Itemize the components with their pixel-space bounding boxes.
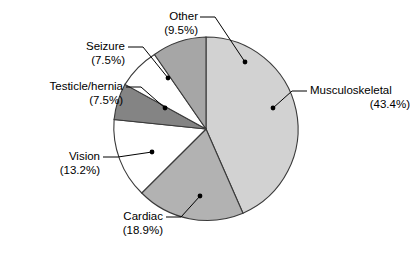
marker-dot-other (243, 60, 248, 65)
pie-chart-figure: Other (9.5%) Seizure (7.5%) Testicle/her… (0, 0, 413, 254)
pie-chart-canvas (0, 0, 413, 254)
slice-label-vision-name: Vision (22, 150, 100, 164)
slice-label-cardiac-percent: (18.9%) (88, 224, 163, 238)
slice-label-seizure-name: Seizure (50, 40, 125, 54)
marker-dot-vision (150, 150, 155, 155)
slice-label-vision-percent: (13.2%) (22, 164, 100, 178)
slice-label-cardiac: Cardiac (18.9%) (88, 210, 163, 237)
slice-label-musculoskeletal-percent: (43.4%) (310, 98, 410, 112)
marker-dot-testicle-hernia (163, 106, 168, 111)
slice-label-seizure-percent: (7.5%) (50, 54, 125, 68)
slice-label-testicle-hernia-name: Testicle/hernia (5, 80, 123, 94)
marker-dot-seizure (166, 76, 171, 81)
marker-dot-musculoskeletal (271, 106, 276, 111)
slice-label-seizure: Seizure (7.5%) (50, 40, 125, 67)
pie-slices (114, 37, 298, 220)
slice-label-cardiac-name: Cardiac (88, 210, 163, 224)
slice-label-other-name: Other (128, 10, 198, 24)
slice-label-vision: Vision (13.2%) (22, 150, 100, 177)
marker-dot-cardiac (198, 194, 203, 199)
slice-label-testicle-hernia-percent: (7.5%) (5, 94, 123, 108)
slice-label-other-percent: (9.5%) (128, 24, 198, 38)
slice-label-testicle-hernia: Testicle/hernia (7.5%) (5, 80, 123, 107)
slice-label-other: Other (9.5%) (128, 10, 198, 37)
slice-label-musculoskeletal-name: Musculoskeletal (310, 84, 410, 98)
slice-label-musculoskeletal: Musculoskeletal (43.4%) (310, 84, 410, 111)
